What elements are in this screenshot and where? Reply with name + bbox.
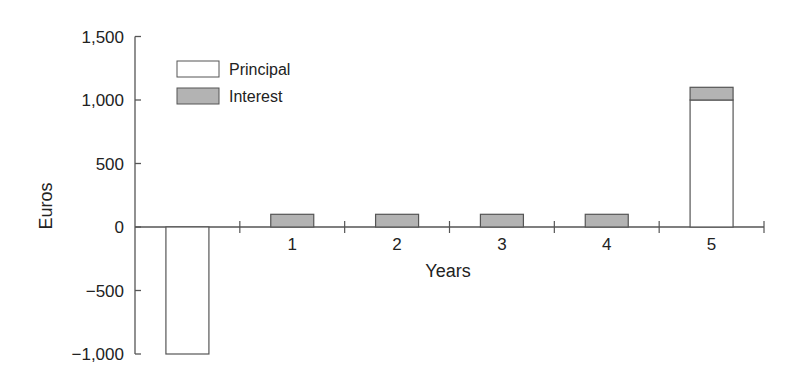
y-tick-label: −500 [86,282,124,301]
bar-interest-year-2 [376,214,419,227]
cash-flow-chart: −1,000−50005001,0001,500 012345 Principa… [0,0,790,383]
legend-label-interest: Interest [229,88,283,105]
y-tick-label: −1,000 [72,345,124,364]
y-tick-label: 1,500 [81,28,124,47]
y-axis: −1,000−50005001,0001,500 [72,28,141,365]
x-tick-label: 3 [497,235,506,254]
bars [166,87,733,354]
legend-label-principal: Principal [229,61,290,78]
bar-interest-year-4 [585,214,628,227]
x-axis: 012345 [135,221,764,254]
y-tick-label: 500 [96,155,124,174]
legend: Principal Interest [177,61,290,105]
y-tick-label: 1,000 [81,91,124,110]
x-tick-label: 2 [392,235,401,254]
bar-principal-year-0 [166,227,209,354]
x-tick-label: 4 [602,235,611,254]
bar-interest-year-3 [480,214,523,227]
bar-interest-year-5 [690,87,733,100]
bar-interest-year-1 [271,214,314,227]
x-tick-label: 5 [707,235,716,254]
legend-swatch-interest [177,88,219,104]
y-axis-title: Euros [36,182,56,229]
y-tick-label: 0 [115,218,124,237]
x-axis-title: Years [425,261,470,281]
x-tick-label: 1 [288,235,297,254]
legend-swatch-principal [177,61,219,77]
bar-principal-year-5 [690,100,733,227]
